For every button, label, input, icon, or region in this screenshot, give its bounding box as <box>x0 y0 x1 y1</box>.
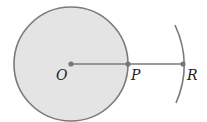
diagram-canvas: O P R <box>0 0 207 122</box>
point-O <box>68 61 73 66</box>
label-P: P <box>130 67 141 83</box>
point-R <box>180 61 185 66</box>
label-R: R <box>186 67 198 83</box>
geometry-diagram: O P R <box>0 0 207 122</box>
point-P <box>125 61 130 66</box>
label-O: O <box>56 67 68 83</box>
